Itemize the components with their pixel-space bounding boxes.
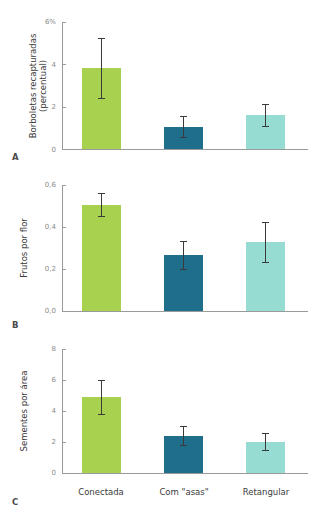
tick-label-c: 4: [52, 407, 56, 415]
error-cap: [180, 241, 187, 242]
x-label-retangular: Retangular: [226, 487, 306, 497]
tick-label-c: 0: [52, 469, 56, 477]
tick-label-b: 0,6: [45, 181, 56, 189]
error-bar-b-conectada: [101, 193, 102, 216]
error-bar-c-retangular: [265, 433, 266, 450]
tick-label-b: 0,0: [45, 307, 56, 315]
x-axis-c: [62, 473, 308, 474]
x-axis-a: [62, 149, 308, 150]
tick-c: [62, 380, 66, 381]
error-bar-b-retangular: [265, 222, 266, 262]
y-axis-label-b: Frutos por flor: [19, 218, 29, 278]
tick-b: [62, 185, 66, 186]
tick-label-a: 0: [52, 146, 56, 154]
tick-b: [62, 269, 66, 270]
x-axis-b: [62, 311, 308, 312]
tick-label-c: 6: [52, 376, 56, 384]
tick-c: [62, 442, 66, 443]
error-cap: [180, 445, 187, 446]
error-cap: [262, 222, 269, 223]
error-bar-b-com-asas: [183, 241, 184, 269]
tick-b: [62, 227, 66, 228]
panel-letter-b: B: [12, 320, 18, 330]
error-cap: [262, 262, 269, 263]
tick-label-c: 2: [52, 438, 56, 446]
tick-c: [62, 411, 66, 412]
tick-c: [62, 349, 66, 350]
tick-a: [62, 107, 66, 108]
error-bar-a-retangular: [265, 104, 266, 126]
error-cap: [98, 216, 105, 217]
tick-label-b: 0,2: [45, 265, 56, 273]
error-cap: [98, 380, 105, 381]
error-bar-a-com-asas: [183, 116, 184, 138]
tick-label-a: 4: [52, 61, 56, 69]
error-cap: [180, 116, 187, 117]
error-cap: [180, 137, 187, 138]
error-cap: [262, 104, 269, 105]
y-axis-label-a-line2: (percentual): [38, 34, 48, 139]
error-cap: [180, 426, 187, 427]
y-axis-label-c: Sementes por área: [19, 371, 29, 452]
error-cap: [98, 38, 105, 39]
x-label-com-asas: Com "asas": [144, 487, 224, 497]
y-axis-a: [62, 22, 63, 150]
tick-a: [62, 64, 66, 65]
error-cap: [98, 98, 105, 99]
bar-b-conectada: [82, 205, 121, 311]
y-axis-label-a: Borboletas recapturadas (percentual): [28, 34, 48, 139]
tick-label-a: 6%: [45, 18, 56, 26]
error-bar-a-conectada: [101, 38, 102, 98]
tick-label-a: 2: [52, 103, 56, 111]
tick-a: [62, 22, 66, 23]
y-axis-label-a-line1: Borboletas recapturadas: [28, 34, 38, 139]
error-cap: [98, 414, 105, 415]
tick-label-c: 8: [52, 345, 56, 353]
panel-letter-c: C: [12, 497, 18, 507]
error-cap: [262, 433, 269, 434]
error-bar-c-conectada: [101, 380, 102, 414]
error-cap: [262, 126, 269, 127]
error-cap: [180, 269, 187, 270]
panel-letter-a: A: [12, 152, 19, 162]
error-cap: [262, 450, 269, 451]
x-label-conectada: Conectada: [61, 487, 141, 497]
tick-label-b: 0,4: [45, 223, 56, 231]
y-axis-b: [62, 185, 63, 312]
error-bar-c-com-asas: [183, 426, 184, 445]
error-cap: [98, 193, 105, 194]
